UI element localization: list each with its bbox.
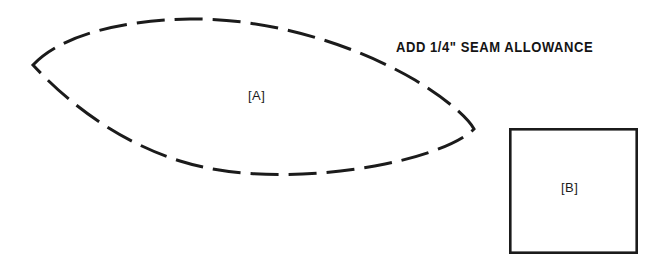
pattern-piece-a-label: [A] bbox=[248, 89, 265, 102]
pattern-piece-b-label: [B] bbox=[561, 181, 578, 194]
pattern-diagram-canvas: [A] [B] ADD 1/4" SEAM ALLOWANCE bbox=[0, 0, 671, 271]
seam-allowance-annotation: ADD 1/4" SEAM ALLOWANCE bbox=[396, 40, 593, 54]
